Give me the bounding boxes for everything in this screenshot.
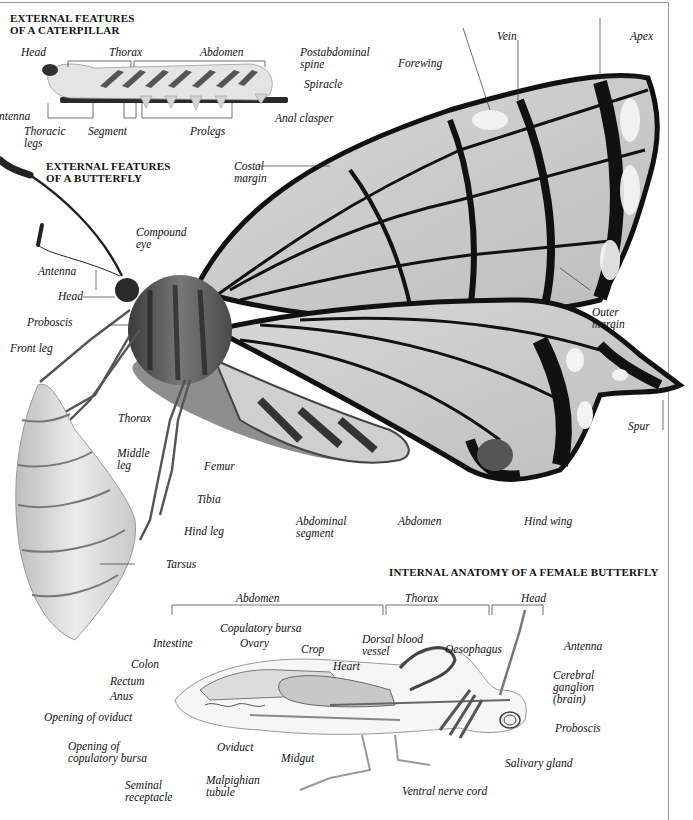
caterpillar-label-thoracic-legs: Thoracic legs bbox=[24, 125, 66, 149]
internal-label-opening-of-copulatory-bursa: Opening of copulatory bursa bbox=[68, 740, 147, 764]
caterpillar-label-thorax: Thorax bbox=[109, 46, 142, 58]
internal-label-ventral-nerve-cord: Ventral nerve cord bbox=[402, 785, 487, 797]
butterfly-label-compound-eye: Compound eye bbox=[136, 226, 186, 250]
caterpillar-label-anal-clasper: Anal clasper bbox=[275, 112, 333, 124]
butterfly-label-forewing: Forewing bbox=[398, 57, 442, 69]
internal-label-oesophagus: Oesophagus bbox=[445, 643, 502, 655]
caterpillar-label-postabdominal-spine: Postabdominal spine bbox=[300, 46, 370, 70]
butterfly-label-outer-margin: Outer margin bbox=[592, 306, 625, 330]
caterpillar-label-segment: Segment bbox=[88, 125, 127, 137]
butterfly-label-head: Head bbox=[58, 290, 83, 302]
internal-label-antenna: Antenna bbox=[564, 640, 602, 652]
butterfly-label-hind-wing: Hind wing bbox=[524, 515, 572, 527]
butterfly-label-costal-margin: Costal margin bbox=[234, 160, 267, 184]
caterpillar-label-prolegs: Prolegs bbox=[190, 125, 225, 137]
caterpillar-heading: EXTERNAL FEATURES OF A CATERPILLAR bbox=[10, 12, 135, 36]
butterfly-label-abdomen: Abdomen bbox=[398, 515, 441, 527]
internal-label-proboscis: Proboscis bbox=[555, 722, 601, 734]
butterfly-label-front-leg: Front leg bbox=[10, 342, 53, 354]
butterfly-label-hind-leg: Hind leg bbox=[184, 525, 224, 537]
internal-label-oviduct: Oviduct bbox=[217, 741, 253, 753]
internal-label-seminal-receptacle: Seminal receptacle bbox=[125, 779, 172, 803]
internal-label-crop: Crop bbox=[301, 643, 324, 655]
butterfly-label-antenna: Antenna bbox=[38, 265, 76, 277]
butterfly-label-vein: Vein bbox=[497, 30, 517, 42]
internal-region-abdomen: Abdomen bbox=[236, 592, 279, 604]
caterpillar-label-head: Head bbox=[21, 46, 46, 58]
butterfly-label-tibia: Tibia bbox=[197, 493, 221, 505]
caterpillar-label-abdomen: Abdomen bbox=[200, 46, 243, 58]
butterfly-label-apex: Apex bbox=[630, 30, 653, 42]
internal-anatomy-illustration bbox=[175, 610, 526, 790]
butterfly-label-femur: Femur bbox=[204, 460, 235, 472]
butterfly-label-abdominal-segment: Abdominal segment bbox=[296, 515, 346, 539]
butterfly-heading: EXTERNAL FEATURES OF A BUTTERFLY bbox=[46, 160, 171, 184]
butterfly-label-proboscis: Proboscis bbox=[27, 316, 73, 328]
internal-region-thorax: Thorax bbox=[405, 592, 438, 604]
caterpillar-illustration bbox=[42, 64, 288, 110]
internal-label-colon: Colon bbox=[131, 658, 159, 670]
internal-label-intestine: Intestine bbox=[153, 637, 193, 649]
internal-label-rectum: Rectum bbox=[110, 675, 144, 687]
internal-label-opening-of-oviduct: Opening of oviduct bbox=[44, 711, 132, 723]
butterfly-label-tarsus: Tarsus bbox=[166, 558, 196, 570]
internal-label-ovary: Ovary bbox=[240, 637, 269, 649]
butterfly-label-middle-leg: Middle leg bbox=[117, 447, 150, 471]
internal-label-cerebral-ganglion: Cerebral ganglion (brain) bbox=[553, 669, 594, 705]
forewing-illustration bbox=[195, 76, 657, 320]
internal-label-salivary-gland: Salivary gland bbox=[505, 757, 572, 769]
caterpillar-label-antenna: Antenna bbox=[0, 110, 30, 122]
butterfly-label-spur: Spur bbox=[628, 420, 650, 432]
internal-label-copulatory-bursa: Copulatory bursa bbox=[220, 622, 301, 634]
internal-label-heart: Heart bbox=[333, 660, 360, 672]
internal-heading: INTERNAL ANATOMY OF A FEMALE BUTTERFLY bbox=[389, 566, 659, 578]
internal-label-malpighian-tubule: Malpighian tubule bbox=[206, 774, 260, 798]
caterpillar-label-spiracle: Spiracle bbox=[304, 78, 342, 90]
internal-label-anus: Anus bbox=[110, 690, 133, 702]
internal-region-head: Head bbox=[521, 592, 546, 604]
internal-label-midgut: Midgut bbox=[281, 752, 314, 764]
internal-label-dorsal-blood-vessel: Dorsal blood vessel bbox=[362, 633, 423, 657]
butterfly-label-thorax: Thorax bbox=[118, 412, 151, 424]
